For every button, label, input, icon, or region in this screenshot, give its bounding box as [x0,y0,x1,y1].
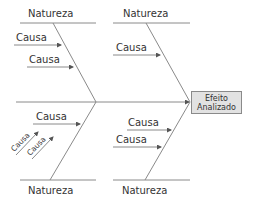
cause-label: Causa [36,111,67,122]
cause-label: Causa [116,42,147,53]
category-label-bottom-left: Natureza [28,185,73,196]
category-label-bottom-right: Natureza [122,185,167,196]
effect-label-line1: Efeito [205,94,228,103]
bone-top-right [146,23,190,102]
cause-label: Causa [29,54,60,65]
category-label-top-left: Natureza [28,8,73,19]
cause-label: Causa [128,117,159,128]
bone-bottom-right [145,102,190,180]
effect-label-line2: Analizado [197,103,236,112]
cause-label: Causa [116,134,147,145]
effect-box: Efeito Analizado [191,91,242,114]
category-label-top-right: Natureza [123,8,168,19]
cause-label: Causa [16,32,47,43]
